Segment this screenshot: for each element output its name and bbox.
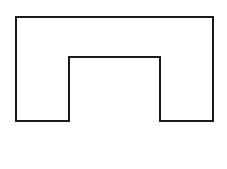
diagram-svg <box>0 0 227 169</box>
diagram-canvas <box>0 0 227 169</box>
arch-shape-outline <box>16 17 213 121</box>
